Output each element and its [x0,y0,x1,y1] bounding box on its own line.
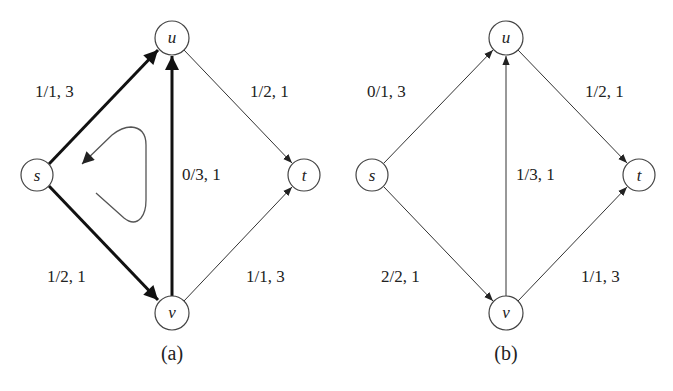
edge-label-v-t: 1/1, 3 [581,267,620,286]
caption-b: (b) [494,342,517,365]
edge-s-u [384,50,493,163]
edge-label-s-u: 1/1, 3 [35,82,74,101]
node-s: s [21,159,53,191]
node-t: t [288,159,320,191]
edge-u-t [184,50,292,163]
node-label: u [502,28,511,47]
edge-label-u-t: 1/2, 1 [585,82,624,101]
node-label: s [369,166,376,185]
node-label: s [34,166,41,185]
node-u: u [155,21,189,55]
node-u: u [489,21,523,55]
edge-label-s-v: 2/2, 1 [381,267,420,286]
edge-s-u-highlighted [49,50,158,164]
node-t: t [623,159,655,191]
edge-label-v-u: 1/3, 1 [516,165,555,184]
node-s: s [356,159,388,191]
node-v: v [155,296,189,330]
cycle-arrow-icon [82,127,146,222]
node-label: u [168,28,177,47]
node-label: v [168,303,176,322]
edge-label-v-t: 1/1, 3 [246,267,285,286]
caption-a: (a) [161,342,183,365]
diagram-a: 1/1, 3 1/2, 1 0/3, 1 1/2, 1 1/1, 3 s u t… [21,21,320,365]
node-label: v [502,303,510,322]
edge-label-s-v: 1/2, 1 [47,267,86,286]
flow-network-figure: 1/1, 3 1/2, 1 0/3, 1 1/2, 1 1/1, 3 s u t… [0,0,673,391]
node-v: v [489,296,523,330]
edge-u-t [518,50,627,163]
edge-label-v-u: 0/3, 1 [182,165,221,184]
edge-label-u-t: 1/2, 1 [250,82,289,101]
edge-label-s-u: 0/1, 3 [367,82,406,101]
diagram-b: 0/1, 3 1/2, 1 1/3, 1 2/2, 1 1/1, 3 s u t… [356,21,655,365]
